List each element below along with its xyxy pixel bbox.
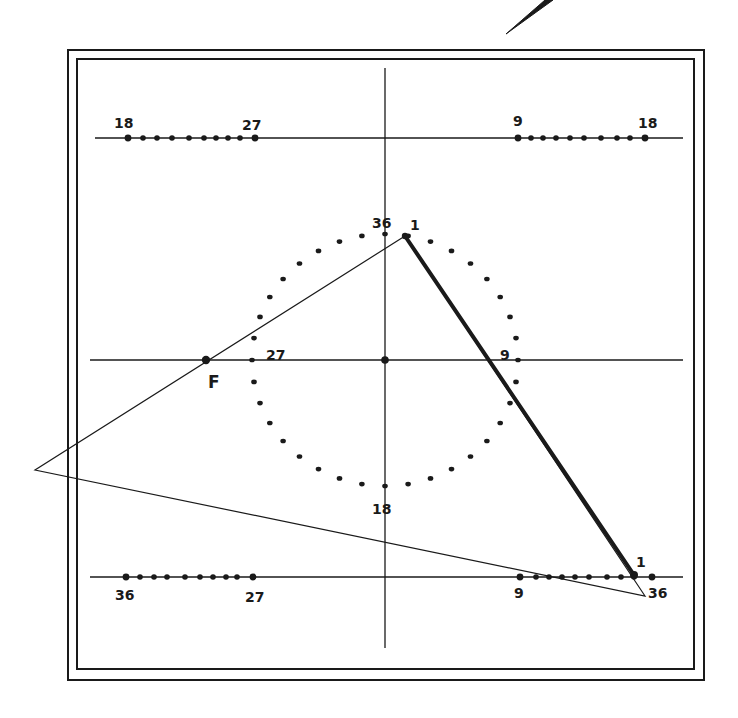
thick-edge-end-point: [630, 571, 638, 579]
scale-dot: [528, 135, 534, 141]
triangle-outline: [35, 236, 645, 596]
circle-label: 18: [372, 501, 391, 517]
circle-dot: [449, 249, 455, 254]
circle-dot: [428, 476, 434, 481]
scale-dot: [618, 574, 624, 580]
circle-dot: [316, 467, 322, 472]
scale-dot: [137, 574, 143, 580]
construction-diagram: F18279183627913636127918: [0, 0, 738, 718]
circle-label: 36: [372, 215, 391, 231]
scale-dot: [581, 135, 587, 141]
pen-stroke: [506, 0, 553, 34]
number-labels: F18279183627913636127918: [114, 113, 667, 605]
circle-dot: [280, 277, 286, 282]
circle-dot: [484, 277, 490, 282]
scale-label: 27: [245, 589, 264, 605]
scale-dot: [252, 135, 259, 142]
circle-dot: [497, 421, 503, 426]
scale-dot: [140, 135, 146, 141]
circle-label: 1: [410, 217, 420, 233]
circle-dot: [468, 454, 474, 459]
scale-dot: [169, 135, 175, 141]
circle-dot: [382, 232, 388, 237]
scale-dot: [151, 574, 157, 580]
scale-dot: [515, 135, 522, 142]
circle-dot: [297, 454, 303, 459]
circle-dot: [513, 336, 519, 341]
circle-dot: [507, 401, 513, 406]
scale-dot: [250, 574, 257, 581]
scale-dot: [154, 135, 160, 141]
circle-label: 9: [500, 347, 510, 363]
circle-dot: [428, 239, 434, 244]
circle-dot: [382, 484, 388, 489]
outer-frame: [68, 50, 704, 680]
scale-dot: [553, 135, 559, 141]
scale-dot: [237, 135, 243, 141]
scale-dot: [223, 574, 229, 580]
triangle: [35, 233, 645, 596]
thick-edge: [405, 236, 634, 575]
scale-label: 9: [513, 113, 523, 129]
scale-dot: [598, 135, 604, 141]
circle-dot: [297, 261, 303, 266]
circle-dot: [337, 476, 343, 481]
scale-dot: [197, 574, 203, 580]
circle-dot: [249, 358, 255, 363]
scale-dot: [567, 135, 573, 141]
circle-dot: [337, 239, 343, 244]
scale-dot: [164, 574, 170, 580]
scale-label: 36: [648, 585, 667, 601]
scale-dot: [627, 135, 633, 141]
circle-dot: [449, 467, 455, 472]
circle-dot: [484, 439, 490, 444]
double-frame: [68, 50, 704, 680]
circle-dot: [267, 295, 273, 300]
scale-label: 18: [638, 115, 657, 131]
scale-dot: [210, 574, 216, 580]
circle-dot: [257, 315, 263, 320]
scale-dot: [123, 574, 130, 581]
scale-label: 36: [115, 587, 134, 603]
circle-dot: [359, 482, 365, 487]
circle-dot: [359, 234, 365, 239]
diagram-canvas: F18279183627913636127918: [0, 0, 738, 718]
circle-dot: [405, 482, 411, 487]
scale-dot: [649, 574, 656, 581]
circle-dot: [497, 295, 503, 300]
circle-dot: [251, 380, 257, 385]
circle-dot: [267, 421, 273, 426]
scale-dot: [125, 135, 132, 142]
scale-dot: [614, 135, 620, 141]
circle-dot: [280, 439, 286, 444]
scale-dot: [213, 135, 219, 141]
center-point: [381, 356, 389, 364]
circle-label: 27: [266, 347, 285, 363]
scale-dot: [234, 574, 240, 580]
scale-dot: [572, 574, 578, 580]
scale-dot: [604, 574, 610, 580]
scale-dot: [517, 574, 524, 581]
scale-dot: [186, 135, 192, 141]
scale-label: 18: [114, 115, 133, 131]
scale-dot: [586, 574, 592, 580]
scale-label: 9: [514, 585, 524, 601]
circle-dot: [507, 315, 513, 320]
focus-label: F: [208, 372, 220, 392]
scale-label: 27: [242, 117, 261, 133]
pen-stroke-mark: [506, 0, 553, 34]
scale-dot: [201, 135, 207, 141]
circle-dot: [257, 401, 263, 406]
scale-dot: [533, 574, 539, 580]
apex-point: [402, 233, 408, 239]
circle-dot: [316, 249, 322, 254]
circle-dot: [513, 380, 519, 385]
circle-dot: [468, 261, 474, 266]
scale-label: 1: [636, 554, 646, 570]
scale-dot: [540, 135, 546, 141]
scale-dot: [642, 135, 649, 142]
scale-dot: [182, 574, 188, 580]
circle-dot: [515, 358, 521, 363]
circle-dot: [251, 336, 257, 341]
scale-dot: [225, 135, 231, 141]
